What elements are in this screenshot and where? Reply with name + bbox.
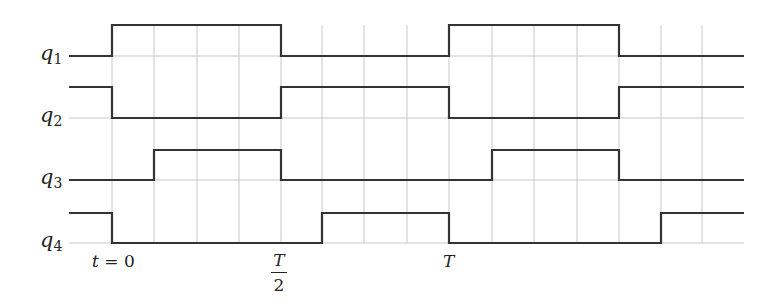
label-var: q [40, 103, 53, 127]
label-var: q [40, 165, 53, 189]
label-sub: 4 [53, 238, 62, 254]
label-sub: 1 [53, 51, 62, 67]
fraction: T 2 [271, 252, 287, 294]
signal-label-q1: q1 [40, 43, 62, 66]
t0-var: t [92, 251, 99, 271]
signal-label-q2: q2 [40, 105, 62, 128]
label-var: q [40, 41, 53, 65]
period-var: T [443, 251, 454, 271]
label-sub: 2 [53, 113, 62, 129]
grid [69, 25, 744, 243]
time-label-half-period: T 2 [271, 252, 287, 294]
signal-label-q3: q3 [40, 167, 62, 190]
fraction-bar [271, 272, 287, 273]
label-var: q [40, 228, 53, 252]
time-label-period: T [443, 253, 454, 270]
fraction-numerator: T [271, 252, 286, 269]
fraction-denominator: 2 [274, 277, 285, 294]
t0-eq: = 0 [99, 251, 135, 271]
time-label-t0: t = 0 [92, 253, 135, 270]
signal-label-q4: q4 [40, 230, 62, 253]
label-sub: 3 [53, 175, 62, 191]
